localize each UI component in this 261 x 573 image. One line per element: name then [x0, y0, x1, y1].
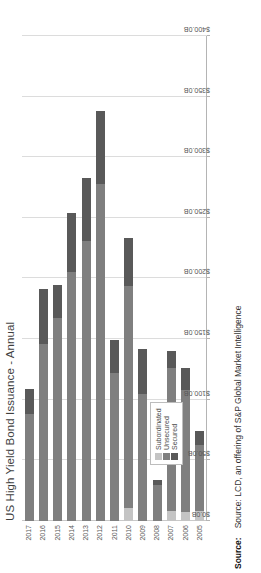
bar-row[interactable]	[96, 111, 105, 521]
bar-segment-unsecured[interactable]	[82, 241, 91, 521]
bar-segment-secured[interactable]	[110, 340, 119, 373]
category-label: 2008	[153, 525, 160, 557]
bar-row[interactable]	[39, 289, 48, 521]
category-label: 2009	[139, 525, 146, 557]
bar-segment-secured[interactable]	[181, 368, 190, 390]
axis-tick-mark	[207, 96, 210, 97]
bar-segment-secured[interactable]	[67, 213, 76, 272]
bar-segment-unsecured[interactable]	[67, 272, 76, 521]
chart-legend: Subordinated Unsecured Secured	[150, 402, 183, 465]
category-label: 2015	[54, 525, 61, 557]
category-label: 2016	[39, 525, 46, 557]
value-axis-labels: $0.0B$50.0B$100.0B$150.0B$200.0B$250.0B$…	[207, 36, 255, 521]
bar-segment-secured[interactable]	[39, 289, 48, 344]
legend-label-unsecured: Unsecured	[163, 416, 170, 450]
bar-segment-secured[interactable]	[195, 431, 204, 444]
bar-segment-unsecured[interactable]	[124, 286, 133, 508]
bar-segment-secured[interactable]	[124, 239, 133, 286]
category-label: 2011	[111, 525, 118, 557]
legend-label-secured: Secured	[171, 424, 178, 450]
bar-row[interactable]	[53, 285, 62, 521]
axis-tick-label: $100.0B	[184, 390, 210, 397]
category-label: 2010	[125, 525, 132, 557]
legend-item-unsecured: Unsecured	[163, 408, 170, 460]
legend-swatch-unsecured	[163, 453, 170, 460]
legend-swatch-subordinated	[155, 453, 162, 460]
category-label: 2007	[167, 525, 174, 557]
bar-segment-secured[interactable]	[25, 389, 34, 414]
bar-segment-unsecured[interactable]	[39, 344, 48, 521]
axis-tick-label: $150.0B	[184, 329, 210, 336]
axis-tick-label: $0.0B	[192, 511, 210, 518]
bar-row[interactable]	[110, 340, 119, 521]
category-label: 2014	[68, 525, 75, 557]
bar-row[interactable]	[153, 480, 162, 521]
chart-figure: US High Yield Bond Issuance - Annual 200…	[0, 0, 261, 573]
legend-item-secured: Secured	[171, 408, 178, 460]
bar-segment-secured[interactable]	[167, 351, 176, 368]
bar-segment-unsecured[interactable]	[53, 319, 62, 521]
legend-label-subordinated: Subordinated	[155, 408, 162, 450]
bar-segment-secured[interactable]	[96, 111, 105, 184]
legend-item-subordinated: Subordinated	[155, 408, 162, 460]
category-label: 2005	[196, 525, 203, 557]
source-footnote: Source:Source: LCD, an offering of S&P G…	[233, 306, 243, 569]
category-label: 2012	[96, 525, 103, 557]
rotated-figure-wrapper: US High Yield Bond Issuance - Annual 200…	[0, 0, 261, 573]
source-label: Source:	[233, 537, 243, 569]
bar-segment-secured[interactable]	[82, 178, 91, 241]
axis-tick-label: $350.0B	[184, 87, 210, 94]
bar-row[interactable]	[195, 431, 204, 521]
axis-tick-mark	[207, 156, 210, 157]
page-title: US High Yield Bond Issuance - Annual	[4, 322, 16, 521]
bar-segment-secured[interactable]	[53, 285, 62, 319]
bar-row[interactable]	[25, 389, 34, 521]
axis-tick-label: $200.0B	[184, 269, 210, 276]
axis-tick-label: $50.0B	[188, 450, 210, 457]
bar-segment-secured[interactable]	[138, 349, 147, 394]
source-text: Source: LCD, an offering of S&P Global M…	[233, 306, 243, 529]
bar-segment-unsecured[interactable]	[25, 414, 34, 521]
bar-segment-subordinated[interactable]	[124, 508, 133, 521]
bar-row[interactable]	[67, 213, 76, 521]
category-label: 2017	[25, 525, 32, 557]
axis-tick-mark	[207, 520, 210, 521]
bar-segment-unsecured[interactable]	[138, 394, 147, 521]
axis-tick-mark	[207, 35, 210, 36]
bar-row[interactable]	[138, 349, 147, 521]
bar-segment-unsecured[interactable]	[96, 184, 105, 521]
category-label: 2006	[182, 525, 189, 557]
category-label: 2013	[82, 525, 89, 557]
axis-tick-mark	[207, 217, 210, 218]
bar-segment-unsecured[interactable]	[110, 373, 119, 521]
axis-tick-label: $300.0B	[184, 147, 210, 154]
axis-tick-label: $400.0B	[184, 26, 210, 33]
bar-row[interactable]	[82, 178, 91, 521]
bar-row[interactable]	[124, 239, 133, 522]
axis-tick-mark	[207, 459, 210, 460]
legend-swatch-secured	[171, 453, 178, 460]
axis-tick-label: $250.0B	[184, 208, 210, 215]
bar-segment-unsecured[interactable]	[153, 485, 162, 521]
bar-segment-secured[interactable]	[153, 480, 162, 485]
axis-tick-mark	[207, 338, 210, 339]
axis-tick-mark	[207, 278, 210, 279]
bar-segment-subordinated[interactable]	[181, 513, 190, 521]
axis-tick-mark	[207, 399, 210, 400]
bar-segment-subordinated[interactable]	[167, 511, 176, 521]
